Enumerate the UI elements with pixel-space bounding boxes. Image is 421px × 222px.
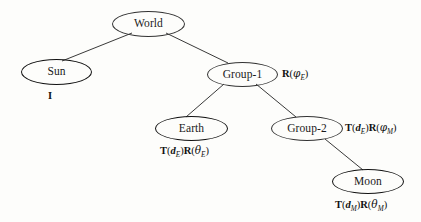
transform-label-moon: T(dM)R(θM) bbox=[335, 199, 387, 211]
node-group2-label: Group-2 bbox=[287, 123, 327, 135]
node-group2[interactable]: Group-2 bbox=[271, 116, 343, 141]
node-moon[interactable]: Moon bbox=[332, 169, 404, 194]
node-group1[interactable]: Group-1 bbox=[207, 62, 278, 87]
transform-label-earth: T(dE)R(θE) bbox=[160, 145, 209, 157]
node-moon-label: Moon bbox=[354, 176, 382, 188]
node-earth-label: Earth bbox=[179, 123, 204, 135]
node-sun[interactable]: Sun bbox=[21, 59, 92, 85]
transform-label-group2: T(dE)R(φM) bbox=[345, 122, 397, 134]
node-group1-label: Group-1 bbox=[223, 69, 263, 81]
edge-group1-earth bbox=[186, 84, 224, 117]
edge-group2-moon bbox=[325, 139, 363, 170]
edge-world-sun bbox=[62, 33, 132, 61]
node-world-label: World bbox=[134, 18, 163, 30]
edge-world-group1 bbox=[166, 33, 228, 63]
node-earth[interactable]: Earth bbox=[155, 116, 228, 141]
edge-group1-group2 bbox=[256, 84, 296, 117]
scene-graph-diagram: World Sun I Group-1 R(φE) Earth T(dE)R(θ… bbox=[0, 0, 421, 222]
node-sun-label: Sun bbox=[47, 66, 65, 78]
transform-label-group1: R(φE) bbox=[282, 68, 308, 80]
transform-label-sun: I bbox=[48, 91, 52, 102]
node-world[interactable]: World bbox=[112, 11, 185, 37]
